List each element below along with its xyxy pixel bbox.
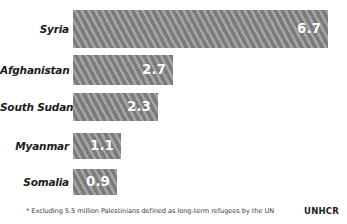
bar-value-label: 0.9	[86, 175, 117, 189]
bar-category-label: Syria	[0, 24, 73, 35]
bar-category-label: Myanmar	[0, 141, 73, 152]
bar-value-label: 1.1	[90, 139, 121, 153]
footnote-text: * Excluding 5.5 million Palestinians def…	[26, 203, 274, 219]
bar-value-label: 2.3	[127, 100, 158, 114]
bar-value-label: 2.7	[142, 63, 173, 77]
bar-afghanistan: 2.7	[73, 55, 173, 85]
bar-category-label: Somalia	[0, 177, 73, 188]
bar-category-label: South Sudan	[0, 102, 73, 113]
bar-somalia: 0.9	[73, 169, 117, 195]
bar-south-sudan: 2.3	[73, 93, 158, 121]
bar-row: Syria 6.7	[0, 10, 347, 48]
bar-syria: 6.7	[73, 10, 328, 48]
bar-row: Myanmar 1.1	[0, 133, 347, 159]
bar-row: South Sudan 2.3	[0, 93, 347, 121]
bar-row: Afghanistan 2.7	[0, 55, 347, 85]
bar-myanmar: 1.1	[73, 133, 121, 159]
bar-value-label: 6.7	[297, 22, 328, 36]
unhcr-logo: UNHCR	[304, 203, 339, 219]
chart-footer: * Excluding 5.5 million Palestinians def…	[0, 203, 347, 219]
bar-row: Somalia 0.9	[0, 169, 347, 195]
bar-category-label: Afghanistan	[0, 65, 73, 76]
refugee-bar-chart: Syria 6.7 Afghanistan 2.7 South Sudan 2.…	[0, 0, 347, 224]
